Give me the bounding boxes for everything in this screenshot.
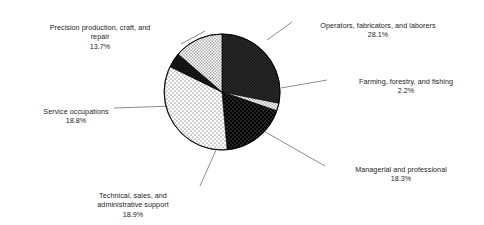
slice-label-operators: Operators, fabricators, and laborers 28.… xyxy=(286,12,470,49)
slice-label-managerial: Managerial and professional 18.3% xyxy=(322,156,480,193)
slice-label-managerial-percent: 18.3% xyxy=(322,174,480,183)
slice-label-service-percent: 18.8% xyxy=(22,116,130,125)
slice-label-managerial-text: Managerial and professional xyxy=(355,165,447,174)
slice-label-operators-text: Operators, fabricators, and laborers xyxy=(320,21,435,30)
slice-label-farming: Farming, forestry, and fishing 2.2% xyxy=(330,68,482,105)
pie-chart-figure: Precision production, craft, and repair … xyxy=(0,0,484,225)
leader-line-technical xyxy=(200,150,216,186)
slice-label-farming-text: Farming, forestry, and fishing xyxy=(359,77,453,86)
slice-label-technical: Technical, sales, and administrative sup… xyxy=(62,182,204,225)
leader-line-farming xyxy=(281,80,327,88)
slice-label-precision: Precision production, craft, and repair … xyxy=(14,14,186,60)
slice-label-farming-percent: 2.2% xyxy=(330,86,482,95)
slice-label-precision-percent: 13.7% xyxy=(14,42,186,51)
slice-label-service: Service occupations 18.8% xyxy=(22,98,130,135)
slice-label-precision-text: Precision production, craft, and repair xyxy=(50,23,151,41)
leader-line-managerial xyxy=(262,130,325,166)
pie-slice-operators[interactable] xyxy=(222,34,280,103)
slice-label-operators-percent: 28.1% xyxy=(286,30,470,39)
slice-label-service-text: Service occupations xyxy=(43,107,108,116)
slice-label-technical-percent: 18.9% xyxy=(62,210,204,219)
slice-label-technical-text: Technical, sales, and administrative sup… xyxy=(97,191,168,209)
